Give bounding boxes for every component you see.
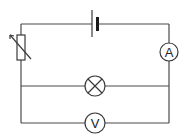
lamp-icon <box>85 76 105 96</box>
voltmeter-label: V <box>91 116 100 131</box>
battery-icon <box>92 10 98 37</box>
ammeter-icon: A <box>160 43 178 61</box>
ammeter-label: A <box>165 45 174 60</box>
voltmeter-icon: V <box>85 113 105 133</box>
circuit-diagram: A V <box>0 0 184 138</box>
variable-resistor-icon <box>10 35 31 60</box>
